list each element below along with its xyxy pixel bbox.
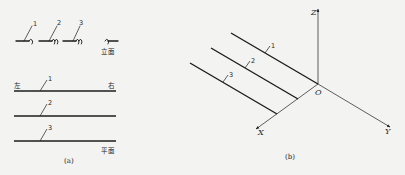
- elevation-view: [16, 26, 118, 44]
- elevation-pipe-2-label: 2: [57, 19, 61, 27]
- plan-view: [14, 80, 116, 141]
- pipe-projection-diagram: 1 2 3 立面 左 右 1 2 3 平面 (a): [0, 0, 405, 175]
- axo-pipe-2-label: 2: [251, 57, 255, 65]
- plan-left-label: 左: [14, 81, 21, 90]
- panel-a-caption: (a): [64, 157, 74, 165]
- elevation-pipe-3-label: 3: [79, 19, 83, 27]
- origin-label: O: [315, 88, 322, 97]
- panel-b-caption: (b): [285, 153, 295, 161]
- y-axis: [318, 84, 390, 127]
- plan-view-label: 平面: [101, 147, 115, 155]
- plan-pipe-2-label: 2: [48, 99, 52, 107]
- x-axis-label: X: [257, 128, 264, 137]
- elevation-pipe-1-label: 1: [33, 20, 37, 28]
- elevation-view-label: 立面: [101, 47, 115, 56]
- axonometric-axes: [256, 9, 390, 129]
- axo-pipe-3-label: 3: [229, 71, 233, 79]
- z-axis-label: Z: [310, 8, 317, 17]
- plan-right-label: 右: [108, 81, 115, 90]
- axonometric-pipes: [190, 33, 318, 114]
- plan-pipe-3-label: 3: [48, 124, 52, 132]
- axo-pipe-1-label: 1: [271, 42, 275, 50]
- y-axis-label: Y: [385, 127, 391, 136]
- plan-pipe-1-label: 1: [48, 75, 52, 83]
